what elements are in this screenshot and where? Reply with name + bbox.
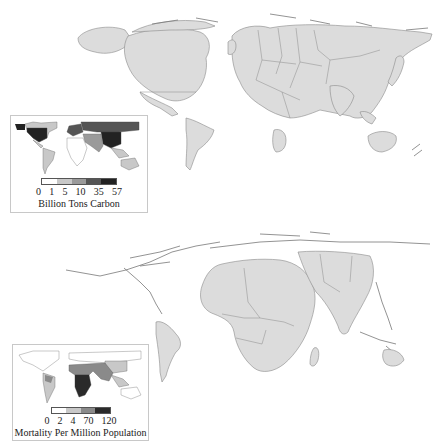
carbon-inset-choropleth-map	[11, 116, 147, 176]
mortality-legend-title: Mortality Per Million Population	[13, 427, 148, 439]
legend-swatch	[72, 179, 87, 184]
mortality-inset: 0 2 4 70 120 Mortality Per Million Popul…	[12, 344, 149, 441]
legend-swatch	[66, 408, 81, 413]
mortality-legend: 0 2 4 70 120 Mortality Per Million Popul…	[13, 407, 148, 439]
legend-tick: 4	[71, 415, 76, 426]
carbon-legend-ticks: 0 1 5 10 35 57	[36, 186, 122, 197]
legend-swatch	[52, 408, 67, 413]
legend-tick: 5	[62, 186, 67, 197]
carbon-legend: 0 1 5 10 35 57 Billion Tons Carbon	[11, 178, 147, 210]
carbon-inset: 0 1 5 10 35 57 Billion Tons Carbon	[10, 115, 148, 213]
legend-swatch	[81, 408, 96, 413]
legend-tick: 0	[36, 186, 41, 197]
legend-tick: 35	[94, 186, 104, 197]
legend-swatch	[86, 179, 101, 184]
legend-swatch	[57, 179, 72, 184]
legend-swatch	[101, 179, 116, 184]
carbon-legend-title: Billion Tons Carbon	[11, 198, 147, 210]
carbon-legend-colorbar	[41, 178, 117, 185]
mortality-legend-colorbar	[51, 407, 111, 414]
legend-swatch	[42, 179, 57, 184]
mortality-cartogram-panel: 0 2 4 70 120 Mortality Per Million Popul…	[0, 222, 447, 448]
legend-tick: 120	[102, 415, 117, 426]
mortality-inset-choropleth-map	[13, 345, 148, 405]
legend-tick: 10	[76, 186, 86, 197]
carbon-cartogram-panel: 0 1 5 10 35 57 Billion Tons Carbon	[0, 0, 447, 222]
legend-tick: 2	[58, 415, 63, 426]
legend-tick: 57	[112, 186, 122, 197]
legend-swatch	[95, 408, 110, 413]
legend-tick: 0	[45, 415, 50, 426]
legend-tick: 1	[49, 186, 54, 197]
mortality-legend-ticks: 0 2 4 70 120	[45, 415, 117, 426]
legend-tick: 70	[84, 415, 94, 426]
